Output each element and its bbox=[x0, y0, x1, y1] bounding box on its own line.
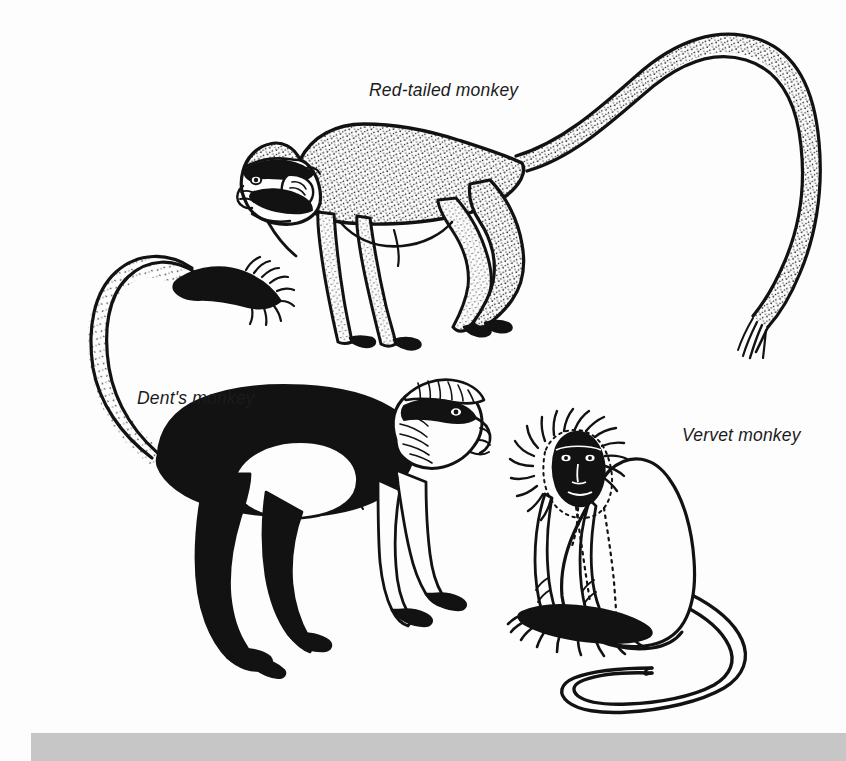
dents-monkey-foreleg-near bbox=[396, 470, 444, 606]
dents-monkey-hind-leg-near bbox=[196, 474, 251, 665]
red-tailed-monkey-figure bbox=[237, 34, 820, 358]
label-dents-monkey: Dent's monkey bbox=[137, 388, 255, 409]
red-tailed-monkey-front-leg-near bbox=[318, 212, 352, 344]
red-tailed-monkey-front-leg-far bbox=[357, 216, 396, 346]
red-tailed-monkey-tail bbox=[516, 34, 820, 358]
monkey-illustrations-artboard bbox=[0, 0, 846, 761]
illustration-plate: Red-tailed monkey Dent's monkey Vervet m… bbox=[0, 0, 846, 761]
label-red-tailed-monkey: Red-tailed monkey bbox=[369, 80, 518, 101]
label-vervet-monkey: Vervet monkey bbox=[682, 425, 801, 446]
footer-bar bbox=[31, 733, 846, 761]
vervet-monkey-figure bbox=[508, 409, 745, 713]
dents-monkey-figure bbox=[91, 256, 490, 678]
